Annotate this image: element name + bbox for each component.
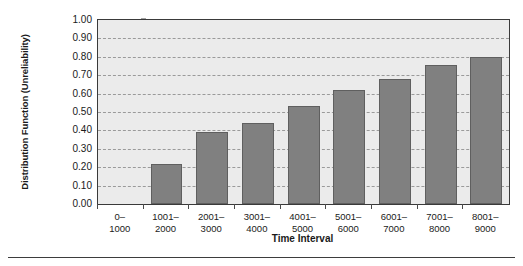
y-axis-tick-label: 0.80 [48, 50, 92, 61]
x-axis-tick-mark [462, 204, 463, 209]
x-axis-tick-mark [325, 204, 326, 209]
x-axis-tick-cell [371, 204, 417, 209]
bar-slot [144, 20, 190, 204]
bar [379, 79, 411, 204]
x-axis-tick-label: 1001–2000 [143, 211, 189, 234]
x-axis-tick-label: 2001–3000 [188, 211, 234, 234]
x-axis-tick-label: 5001–6000 [325, 211, 371, 234]
bar-series [98, 20, 509, 204]
bar-slot [463, 20, 509, 204]
bar-slot [418, 20, 464, 204]
x-axis-tick-cell [143, 204, 189, 209]
x-axis-tick-label: 3001–4000 [234, 211, 280, 234]
x-axis-tick-label-line: 6001– [371, 211, 417, 223]
footer-divider [8, 257, 515, 258]
y-axis-tick-label: 0.50 [48, 106, 92, 117]
x-axis-tick-label-line: 4001– [280, 211, 326, 223]
x-axis-tick-label-line: 7001– [417, 211, 463, 223]
y-axis-title: Distribution Function (Unreliability) [16, 6, 32, 218]
bar-slot [189, 20, 235, 204]
x-axis-tick-cell [280, 204, 326, 209]
x-axis-tick-cell [325, 204, 371, 209]
x-axis-tick-cell [234, 204, 280, 209]
x-axis-tick-mark [234, 204, 235, 209]
bar [333, 90, 365, 204]
bar [470, 57, 502, 204]
plot-area [97, 19, 510, 205]
x-axis-tick-label-line: 2001– [188, 211, 234, 223]
x-axis-tick-mark [280, 204, 281, 209]
y-axis-tick-label: 0.60 [48, 87, 92, 98]
x-axis-tick-label: 8001–9000 [462, 211, 508, 234]
x-axis-tick-cell [188, 204, 234, 209]
x-axis-title: Time Interval [97, 233, 508, 244]
x-axis-tick-label-line: 5001– [325, 211, 371, 223]
x-axis-tick-mark [143, 204, 144, 209]
bar-slot [326, 20, 372, 204]
x-axis-tick-mark [417, 204, 418, 209]
bar-slot [281, 20, 327, 204]
x-axis-tick-cell [417, 204, 463, 209]
y-axis-tick-label: 0.40 [48, 124, 92, 135]
y-axis-tick-label: 0.00 [48, 198, 92, 209]
bar [196, 132, 228, 204]
y-axis-tick-label: 1.00 [48, 14, 92, 25]
x-axis-tick-label: 7001–8000 [417, 211, 463, 234]
bar-slot [235, 20, 281, 204]
bar-slot [98, 20, 144, 204]
y-axis-tick-label: 0.30 [48, 142, 92, 153]
x-axis-tick-label-line: 0– [97, 211, 143, 223]
x-axis-tick-label: 6001–7000 [371, 211, 417, 234]
bar-chart-figure: Distribution Function (Unreliability) 1.… [0, 0, 523, 266]
x-axis-tick-cell [462, 204, 508, 209]
x-axis-tick-labels: 0–10001001–20002001–30003001–40004001–50… [97, 211, 508, 234]
x-axis-tick-cell [97, 204, 143, 209]
y-axis-tick-label: 0.70 [48, 69, 92, 80]
y-axis-tick-label: 0.90 [48, 32, 92, 43]
bar [425, 65, 457, 204]
x-axis-tick-label: 4001–5000 [280, 211, 326, 234]
x-axis-tick-mark [97, 204, 98, 209]
y-axis-tick-labels: 1.000.900.800.700.600.500.400.300.200.10… [48, 19, 92, 203]
x-axis-tick-mark [188, 204, 189, 209]
bar [242, 123, 274, 204]
y-axis-tick-label: 0.20 [48, 161, 92, 172]
bar-slot [372, 20, 418, 204]
y-axis-tick-label: 0.10 [48, 179, 92, 190]
x-axis-tick-label-line: 3001– [234, 211, 280, 223]
bar [288, 106, 320, 204]
x-axis-tick-label: 0–1000 [97, 211, 143, 234]
x-axis-tick-label-line: 8001– [462, 211, 508, 223]
x-axis-tick-marks [97, 204, 508, 209]
x-axis-tick-mark [371, 204, 372, 209]
bar [151, 164, 183, 204]
x-axis-tick-label-line: 1001– [143, 211, 189, 223]
